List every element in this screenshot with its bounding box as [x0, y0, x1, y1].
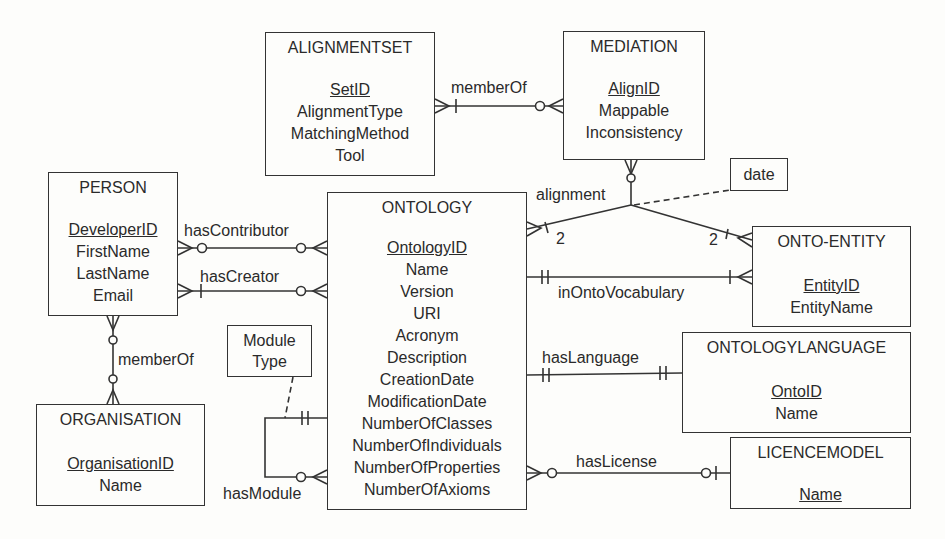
attr: MatchingMethod	[266, 123, 434, 145]
note-text: Module	[228, 330, 311, 351]
label-memberOf-org: memberOf	[118, 351, 194, 369]
attribute-note-date[interactable]: date	[730, 158, 788, 191]
entity-licencemodel[interactable]: LICENCEMODEL Name	[730, 437, 911, 509]
rel-hasContributor	[178, 241, 327, 255]
rel-memberOf-alignmentset-mediation	[435, 99, 563, 113]
attr-primary-key: AlignID	[564, 78, 704, 100]
entity-person[interactable]: PERSON DeveloperID FirstName LastName Em…	[48, 172, 178, 316]
attr-primary-key: SetID	[266, 79, 434, 101]
attr-primary-key: OntoID	[683, 381, 910, 403]
label-alignment-card-right: 2	[709, 231, 718, 249]
rel-hasLanguage	[527, 366, 682, 382]
note-text: Type	[228, 351, 311, 372]
attr: NumberOfProperties	[328, 457, 526, 479]
entity-title: PERSON	[49, 177, 177, 199]
attr: Mappable	[564, 100, 704, 122]
attr: EntityName	[753, 297, 910, 319]
entity-title: ONTO-ENTITY	[753, 231, 910, 253]
attr: Name	[328, 259, 526, 281]
entity-title: ONTOLOGY	[328, 197, 526, 219]
note-text: date	[743, 166, 774, 183]
attr-primary-key: EntityID	[753, 275, 910, 297]
attr-primary-key: Name	[731, 484, 910, 506]
attr: Tool	[266, 145, 434, 167]
attr: LastName	[49, 263, 177, 285]
attr: Name	[683, 403, 910, 425]
attr: ModificationDate	[328, 391, 526, 413]
entity-title: ALIGNMENTSET	[266, 37, 434, 59]
attr: Inconsistency	[564, 122, 704, 144]
label-hasLicense: hasLicense	[576, 453, 657, 471]
date-attribute-link	[634, 190, 730, 205]
attr: FirstName	[49, 241, 177, 263]
attr: Description	[328, 347, 526, 369]
label-alignment: alignment	[536, 186, 605, 204]
attr: URI	[328, 303, 526, 325]
entity-title: ONTOLOGYLANGUAGE	[683, 337, 910, 359]
attr: Acronym	[328, 325, 526, 347]
entity-title: MEDIATION	[564, 36, 704, 58]
entity-title: LICENCEMODEL	[731, 442, 910, 464]
entity-ontology[interactable]: ONTOLOGY OntologyID Name Version URI Acr…	[327, 192, 527, 510]
entity-onto-entity[interactable]: ONTO-ENTITY EntityID EntityName	[752, 226, 911, 327]
rel-alignment-ontology-leg	[527, 205, 631, 236]
attr: Email	[49, 285, 177, 307]
label-hasCreator: hasCreator	[200, 268, 279, 286]
label-hasLanguage: hasLanguage	[542, 349, 639, 367]
entity-mediation[interactable]: MEDIATION AlignID Mappable Inconsistency	[563, 31, 705, 160]
attribute-note-module-type[interactable]: Module Type	[227, 325, 312, 377]
label-inOntoVocabulary: inOntoVocabulary	[558, 284, 684, 302]
rel-hasCreator	[178, 284, 327, 298]
attr-primary-key: OntologyID	[328, 237, 526, 259]
attr: NumberOfClasses	[328, 413, 526, 435]
label-memberOf-alignment: memberOf	[451, 79, 527, 97]
entity-ontologylanguage[interactable]: ONTOLOGYLANGUAGE OntoID Name	[682, 332, 911, 433]
module-type-attribute-link	[285, 377, 293, 418]
attr: Name	[37, 475, 204, 497]
rel-hasModule	[265, 411, 327, 484]
rel-alignment-mediation-leg	[625, 160, 637, 205]
attr: NumberOfAxioms	[328, 479, 526, 501]
attr-primary-key: DeveloperID	[49, 219, 177, 241]
label-alignment-card-left: 2	[556, 230, 565, 248]
attr: CreationDate	[328, 369, 526, 391]
rel-alignment-ontoentity-leg	[631, 205, 752, 247]
entity-alignmentset[interactable]: ALIGNMENTSET SetID AlignmentType Matchin…	[265, 32, 435, 176]
entity-organisation[interactable]: ORGANISATION OrganisationID Name	[36, 404, 205, 506]
rel-inOntoVocabulary	[527, 270, 752, 284]
attr: Version	[328, 281, 526, 303]
entity-title: ORGANISATION	[37, 409, 204, 431]
attr: NumberOfIndividuals	[328, 435, 526, 457]
label-hasContributor: hasContributor	[184, 222, 289, 240]
attr-primary-key: OrganisationID	[37, 453, 204, 475]
attr: AlignmentType	[266, 101, 434, 123]
label-hasModule: hasModule	[223, 485, 301, 503]
